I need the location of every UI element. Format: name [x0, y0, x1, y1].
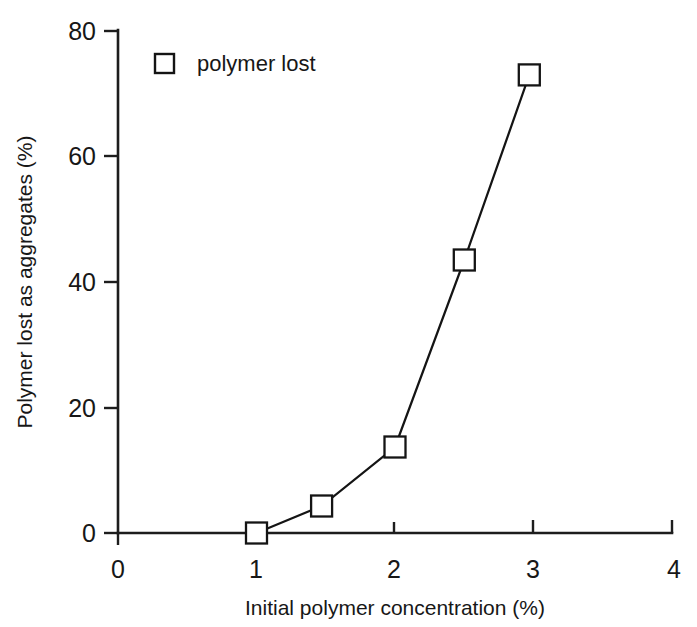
y-tick-label-40: 40 — [68, 268, 96, 296]
series-line-polymer-lost — [257, 75, 530, 533]
y-axis-ticks — [104, 31, 118, 533]
x-tick-label-3: 3 — [526, 555, 540, 583]
x-axis-title: Initial polymer concentration (%) — [245, 596, 545, 619]
data-point-marker — [519, 64, 540, 85]
data-point-marker — [311, 496, 332, 517]
legend-label-polymer-lost: polymer lost — [197, 51, 316, 76]
x-tick-label-0: 0 — [111, 555, 125, 583]
line-chart-canvas: 0 20 40 60 80 0 1 2 3 4 polymer lost Ini… — [0, 0, 697, 627]
x-tick-label-2: 2 — [387, 555, 401, 583]
y-tick-label-20: 20 — [68, 394, 96, 422]
data-point-marker — [385, 437, 406, 458]
y-tick-label-60: 60 — [68, 142, 96, 170]
x-tick-label-1: 1 — [249, 555, 263, 583]
x-tick-label-4: 4 — [667, 555, 681, 583]
y-tick-label-0: 0 — [82, 519, 96, 547]
y-axis-title: Polymer lost as aggregates (%) — [13, 136, 36, 429]
legend: polymer lost — [155, 51, 316, 76]
data-point-marker — [454, 250, 475, 271]
legend-marker-icon — [155, 54, 174, 73]
y-tick-label-80: 80 — [68, 17, 96, 45]
chart-figure: 0 20 40 60 80 0 1 2 3 4 polymer lost Ini… — [0, 0, 697, 627]
data-point-marker — [246, 523, 267, 544]
series-markers-polymer-lost — [246, 64, 540, 543]
